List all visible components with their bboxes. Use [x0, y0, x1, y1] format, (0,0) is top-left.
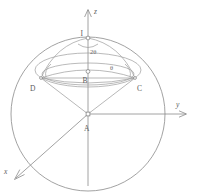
geometry-diagram: I B D C A 2θ θ z y x — [0, 0, 199, 192]
label-point-a: A — [84, 124, 90, 133]
diagram-canvas: I B D C A 2θ θ z y x — [0, 0, 199, 192]
point-marker-c — [134, 77, 137, 80]
label-point-i: I — [81, 29, 84, 38]
point-marker-b — [86, 70, 90, 74]
point-marker-i — [86, 36, 90, 40]
point-marker-d — [40, 77, 43, 80]
label-axis-x: x — [3, 167, 8, 176]
x-axis-line — [16, 114, 88, 178]
label-point-c: C — [137, 84, 142, 93]
point-marker-a — [86, 112, 90, 116]
label-point-b: B — [83, 76, 88, 85]
label-point-d: D — [30, 84, 36, 93]
label-angle-theta: θ — [110, 64, 113, 71]
label-axis-y: y — [175, 100, 180, 109]
label-axis-z: z — [93, 7, 97, 16]
label-angle-two-theta: 2θ — [90, 48, 96, 55]
